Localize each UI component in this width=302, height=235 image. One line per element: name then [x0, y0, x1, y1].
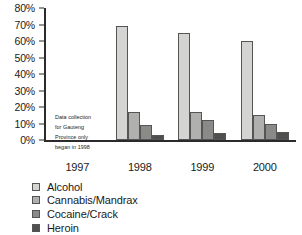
legend-item-cannabis-mandrax: Cannabis/Mandrax	[32, 194, 138, 208]
bar-2000-alcohol	[241, 41, 253, 140]
y-axis: 0%10%20%30%40%50%60%70%80%	[0, 8, 44, 140]
y-tick-label: 10%	[15, 118, 35, 130]
y-tick-label: 0%	[20, 134, 35, 146]
bar-1999-heroin	[214, 133, 226, 140]
x-axis-labels: 1997199819992000	[46, 161, 296, 173]
y-tick-label: 70%	[15, 19, 35, 31]
legend-swatch-icon	[32, 210, 40, 218]
chart-annotation: Data collectionfor GautengProvince onlyb…	[55, 112, 107, 152]
legend-item-alcohol: Alcohol	[32, 180, 138, 194]
legend-swatch-icon	[32, 196, 40, 204]
legend-label: Alcohol	[47, 181, 82, 193]
chart-legend: AlcoholCannabis/MandraxCocaine/CrackHero…	[32, 180, 138, 234]
bar-1998-cannabis-mandrax	[128, 112, 140, 140]
bar-1998-cocaine-crack	[140, 125, 152, 140]
legend-swatch-icon	[32, 224, 40, 232]
bar-group-1998	[109, 8, 172, 140]
y-tick-label: 50%	[15, 52, 35, 64]
y-tick-label: 30%	[15, 85, 35, 97]
annotation-line: Province only	[55, 132, 107, 142]
legend-label: Cannabis/Mandrax	[47, 194, 138, 206]
legend-label: Heroin	[47, 222, 79, 234]
bar-2000-cannabis-mandrax	[253, 115, 265, 140]
annotation-line: began in 1998	[55, 142, 107, 152]
bar-1999-cannabis-mandrax	[190, 112, 202, 140]
bar-group-1999	[171, 8, 234, 140]
legend-swatch-icon	[32, 183, 40, 191]
bar-group-2000	[234, 8, 297, 140]
bar-1998-heroin	[152, 135, 164, 140]
y-tick-label: 20%	[15, 101, 35, 113]
legend-item-cocaine-crack: Cocaine/Crack	[32, 207, 138, 221]
y-tick-label: 40%	[15, 68, 35, 80]
legend-label: Cocaine/Crack	[47, 208, 118, 220]
plot-area: 0%10%20%30%40%50%60%70%80% Data collecti…	[0, 8, 302, 160]
y-tick-label: 80%	[15, 2, 35, 14]
x-tick-label-1999: 1999	[171, 161, 234, 173]
bar-2000-heroin	[277, 132, 289, 140]
x-tick-label-1997: 1997	[46, 161, 109, 173]
y-tick-label: 60%	[15, 35, 35, 47]
bar-2000-cocaine-crack	[265, 124, 277, 141]
annotation-line: for Gauteng	[55, 122, 107, 132]
bar-1998-alcohol	[116, 26, 128, 140]
bar-1999-alcohol	[178, 33, 190, 140]
bar-chart: 0%10%20%30%40%50%60%70%80% Data collecti…	[0, 0, 302, 235]
legend-item-heroin: Heroin	[32, 221, 138, 235]
annotation-line: Data collection	[55, 112, 107, 122]
x-tick-label-2000: 2000	[234, 161, 297, 173]
x-tick-label-1998: 1998	[109, 161, 172, 173]
bar-1999-cocaine-crack	[202, 120, 214, 140]
